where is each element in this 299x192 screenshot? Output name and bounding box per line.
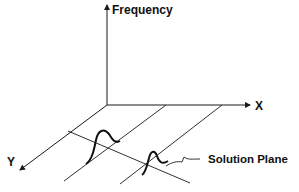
solution-plane-diagram: Frequency X Y Solution Plane — [0, 0, 299, 192]
plane-line-2 — [120, 105, 222, 184]
y-axis — [20, 105, 107, 170]
peak-1 — [86, 131, 120, 164]
solution-plane-label: Solution Plane — [208, 153, 288, 165]
y-axis-label: Y — [7, 155, 15, 169]
frequency-label: Frequency — [112, 3, 173, 17]
plane-line-1 — [64, 105, 166, 181]
solution-line — [68, 131, 190, 183]
x-axis-label: X — [255, 99, 263, 113]
annotation-pointer — [166, 157, 200, 166]
